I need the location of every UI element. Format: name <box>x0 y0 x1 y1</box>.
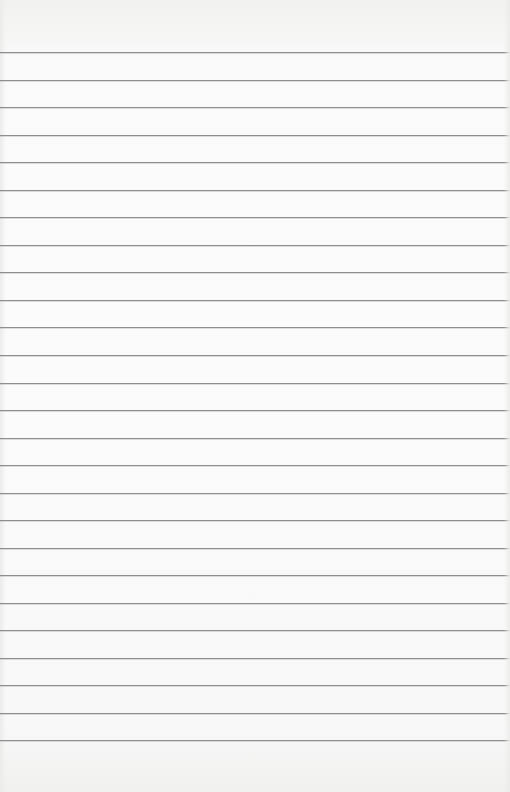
lined-paper-page <box>0 0 510 792</box>
ruled-line <box>0 438 510 439</box>
ruled-line <box>0 548 510 549</box>
ruled-line <box>0 355 510 356</box>
ruled-line <box>0 685 510 686</box>
ruled-line <box>0 135 510 136</box>
ruled-line <box>0 190 510 191</box>
ruled-line <box>0 80 510 81</box>
ruled-line <box>0 245 510 246</box>
ruled-line <box>0 52 510 53</box>
ruled-line <box>0 520 510 521</box>
ruled-line <box>0 300 510 301</box>
ruled-line <box>0 713 510 714</box>
ruled-line <box>0 658 510 659</box>
ruled-line <box>0 740 510 741</box>
ruled-line <box>0 327 510 328</box>
ruled-line <box>0 272 510 273</box>
ruled-line <box>0 575 510 576</box>
ruled-line <box>0 603 510 604</box>
ruled-line <box>0 410 510 411</box>
ruled-line <box>0 383 510 384</box>
ruled-line <box>0 107 510 108</box>
ruled-line <box>0 465 510 466</box>
ruled-line <box>0 493 510 494</box>
ruled-line <box>0 217 510 218</box>
ruled-line <box>0 630 510 631</box>
ruled-line <box>0 162 510 163</box>
